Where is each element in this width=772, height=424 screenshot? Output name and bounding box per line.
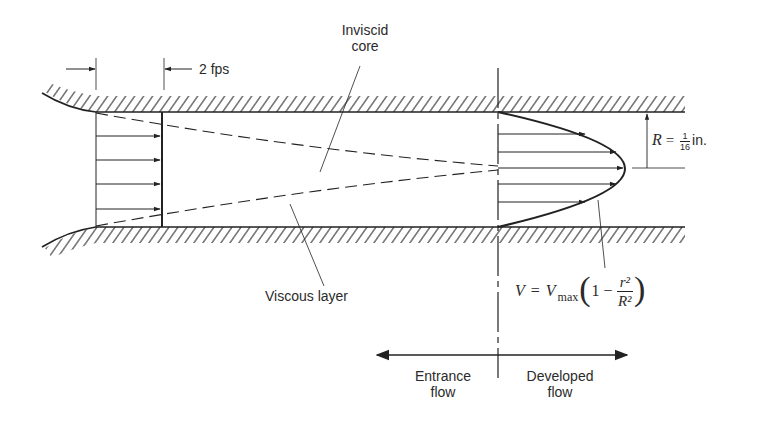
formula-open-paren: ( — [579, 281, 590, 297]
formula-denominator: R² — [618, 292, 632, 310]
inviscid-core-line1: Inviscid — [330, 22, 400, 38]
entrance-flow-line1: Entrance — [398, 368, 488, 384]
velocity-profile-formula: V = V max ( 1 − r² R² ) — [515, 268, 645, 314]
radius-unit: in. — [692, 132, 707, 148]
radius-label: R = 1 16 in. — [652, 131, 707, 152]
inviscid-core-leader — [320, 66, 360, 172]
formula-close-paren: ) — [634, 281, 645, 297]
bottom-wall — [42, 227, 685, 258]
radius-numerator: 1 — [680, 131, 690, 142]
radius-fraction: 1 16 — [680, 131, 690, 152]
formula-eq: = — [531, 283, 540, 299]
inlet-velocity-label: 2 fps — [199, 61, 229, 77]
formula-numerator: r² — [617, 273, 633, 292]
pipe-flow-diagram — [0, 0, 772, 424]
parabolic-velocity-profile — [498, 112, 625, 227]
developed-flow-line1: Developed — [515, 368, 605, 384]
radius-equals: = — [666, 132, 674, 148]
viscous-layer-leader — [290, 204, 324, 286]
top-wall — [42, 84, 685, 112]
entrance-flow-line2: flow — [398, 384, 488, 400]
uniform-inlet-profile — [96, 112, 162, 227]
inviscid-core-line2: core — [330, 38, 400, 54]
formula-one-minus: 1 − — [592, 283, 613, 299]
inlet-velocity-dimension — [66, 58, 192, 90]
formula-vmax: V — [546, 283, 556, 299]
inviscid-core-label: Inviscid core — [330, 22, 400, 54]
radius-symbol: R — [652, 131, 662, 148]
formula-fraction: r² R² — [617, 273, 633, 310]
formula-lhs: V — [515, 283, 525, 299]
viscous-layer-label: Viscous layer — [265, 288, 348, 304]
developed-flow-label: Developed flow — [515, 368, 605, 400]
developed-flow-line2: flow — [515, 384, 605, 400]
entrance-flow-label: Entrance flow — [398, 368, 488, 400]
radius-denominator: 16 — [680, 142, 690, 152]
formula-subscript: max — [558, 289, 579, 305]
